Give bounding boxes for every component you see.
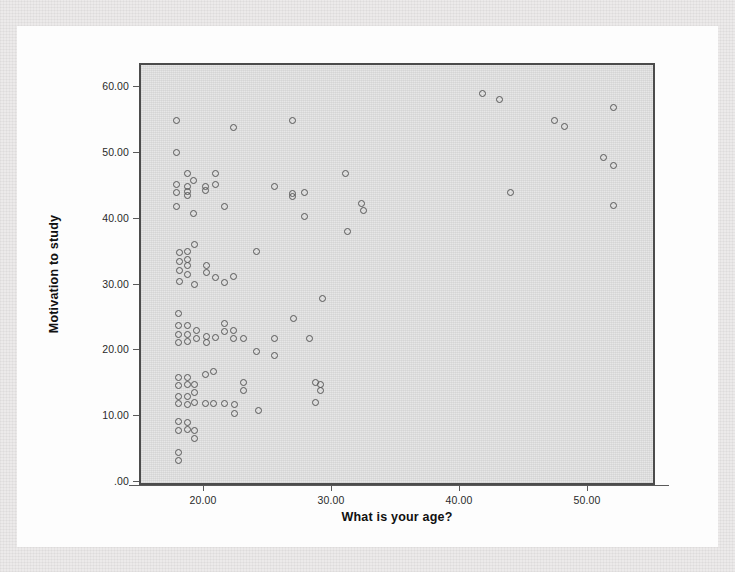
x-axis-tick — [587, 485, 588, 491]
data-point — [221, 328, 228, 335]
data-point — [184, 331, 191, 338]
data-point — [230, 327, 237, 334]
data-point — [210, 368, 217, 375]
data-point — [271, 183, 278, 190]
x-axis-title: What is your age? — [139, 510, 655, 524]
data-point — [240, 379, 247, 386]
data-point — [221, 320, 228, 327]
data-point — [344, 228, 351, 235]
data-point — [175, 457, 182, 464]
data-point — [184, 322, 191, 329]
data-point — [176, 267, 183, 274]
data-point — [175, 339, 182, 346]
data-point — [190, 177, 197, 184]
x-axis-tick — [203, 485, 204, 491]
x-axis-tick — [459, 485, 460, 491]
x-axis-tick-label: 40.00 — [446, 494, 473, 506]
data-point — [173, 149, 180, 156]
data-point — [176, 278, 183, 285]
data-point — [191, 427, 198, 434]
y-axis: .0010.0020.0030.0040.0050.0060.00 — [17, 63, 139, 485]
data-point — [360, 207, 367, 214]
screenshot-canvas: .0010.0020.0030.0040.0050.0060.00 20.003… — [0, 0, 735, 572]
data-point — [319, 295, 326, 302]
data-point — [175, 310, 182, 317]
x-axis-line — [129, 485, 669, 486]
data-point — [176, 258, 183, 265]
data-point — [191, 435, 198, 442]
data-point — [230, 335, 237, 342]
data-point — [221, 400, 228, 407]
data-point — [253, 348, 260, 355]
data-point — [191, 399, 198, 406]
data-point — [312, 399, 319, 406]
data-point — [306, 335, 313, 342]
data-point — [175, 322, 182, 329]
data-point — [175, 449, 182, 456]
data-point — [202, 400, 209, 407]
data-point — [290, 315, 297, 322]
data-point — [317, 387, 324, 394]
data-point — [175, 418, 182, 425]
data-point — [230, 273, 237, 280]
data-point — [175, 393, 182, 400]
data-point — [271, 352, 278, 359]
y-axis-tick-label: 10.00 — [102, 409, 129, 421]
data-point — [175, 331, 182, 338]
data-point — [289, 117, 296, 124]
y-axis-title: Motivation to study — [43, 63, 65, 485]
y-axis-tick — [133, 86, 139, 87]
data-point — [191, 381, 198, 388]
data-point — [176, 249, 183, 256]
data-point — [175, 374, 182, 381]
scatter-chart: .0010.0020.0030.0040.0050.0060.00 20.003… — [17, 26, 718, 547]
data-point — [184, 381, 191, 388]
data-point — [301, 189, 308, 196]
data-point — [253, 248, 260, 255]
y-axis-tick — [133, 415, 139, 416]
data-point — [175, 400, 182, 407]
data-point — [358, 200, 365, 207]
y-axis-tick — [133, 349, 139, 350]
data-point — [610, 104, 617, 111]
data-point — [496, 96, 503, 103]
data-point — [184, 401, 191, 408]
data-point — [212, 170, 219, 177]
data-point — [561, 123, 568, 130]
x-axis-tick-label: 20.00 — [190, 494, 217, 506]
x-axis-tick-label: 50.00 — [574, 494, 601, 506]
data-point — [184, 170, 191, 177]
data-point — [184, 262, 191, 269]
data-point — [301, 213, 308, 220]
data-point — [184, 248, 191, 255]
data-point — [191, 389, 198, 396]
data-point — [193, 327, 200, 334]
data-point — [600, 154, 607, 161]
data-point — [184, 192, 191, 199]
data-point — [173, 203, 180, 210]
data-point — [240, 335, 247, 342]
chart-page: .0010.0020.0030.0040.0050.0060.00 20.003… — [17, 26, 718, 547]
data-point — [202, 187, 209, 194]
data-point — [551, 117, 558, 124]
data-point — [507, 189, 514, 196]
data-point — [173, 181, 180, 188]
data-point — [212, 334, 219, 341]
data-point — [610, 202, 617, 209]
data-point — [173, 189, 180, 196]
data-point — [203, 339, 210, 346]
y-axis-tick-label: 40.00 — [102, 212, 129, 224]
data-point — [610, 162, 617, 169]
data-point — [212, 274, 219, 281]
data-point — [184, 426, 191, 433]
y-axis-tick — [133, 284, 139, 285]
data-point — [193, 335, 200, 342]
data-point — [231, 401, 238, 408]
data-point — [240, 387, 247, 394]
data-point — [210, 400, 217, 407]
data-point — [479, 90, 486, 97]
y-axis-tick-label: 50.00 — [102, 146, 129, 158]
data-point — [191, 241, 198, 248]
y-axis-tick-label: 20.00 — [102, 343, 129, 355]
y-axis-tick — [133, 218, 139, 219]
